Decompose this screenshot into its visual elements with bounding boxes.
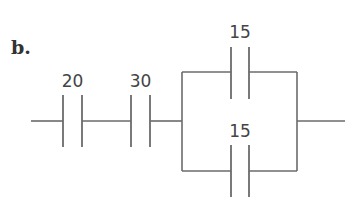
capacitor-c3: 15 (229, 22, 251, 99)
c3-value: 15 (229, 22, 251, 42)
c4-value: 15 (229, 121, 251, 141)
c2-value: 30 (130, 71, 152, 91)
circuit-diagram: 20 30 15 15 (0, 0, 345, 205)
capacitor-c1: 20 (62, 71, 84, 147)
capacitor-c4: 15 (229, 121, 251, 197)
capacitor-c2: 30 (130, 71, 152, 147)
c1-value: 20 (62, 71, 84, 91)
